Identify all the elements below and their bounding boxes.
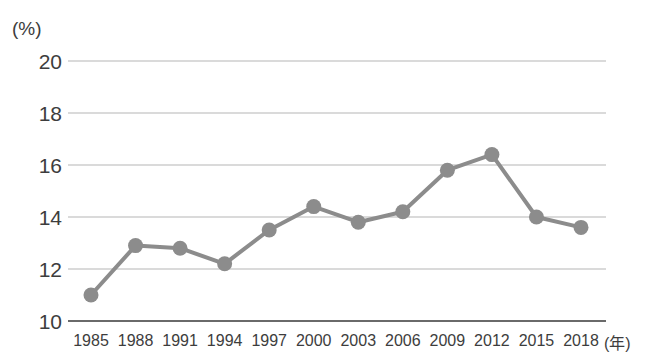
x-axis-tick-label: 2003 bbox=[340, 331, 376, 350]
x-axis-unit-label: (年) bbox=[604, 330, 631, 354]
data-point-marker[interactable] bbox=[262, 223, 277, 238]
series-line bbox=[91, 155, 581, 295]
x-axis-tick-label: 1991 bbox=[162, 331, 198, 350]
data-point-marker[interactable] bbox=[351, 215, 366, 230]
data-point-marker[interactable] bbox=[440, 163, 455, 178]
x-axis-tick-label: 2009 bbox=[430, 331, 466, 350]
plot-area bbox=[0, 0, 649, 357]
x-axis-tick-label: 1985 bbox=[73, 331, 109, 350]
data-point-marker[interactable] bbox=[217, 256, 232, 271]
x-axis-tick-label: 1997 bbox=[251, 331, 287, 350]
x-axis-tick-label: 2006 bbox=[385, 331, 421, 350]
x-axis-tick-label: 2015 bbox=[519, 331, 555, 350]
x-axis-tick-label: 1994 bbox=[207, 331, 243, 350]
data-point-marker[interactable] bbox=[84, 288, 99, 303]
data-point-marker[interactable] bbox=[395, 204, 410, 219]
line-chart: (%) 201816141210 19851988199119941997200… bbox=[0, 0, 649, 357]
data-point-marker[interactable] bbox=[306, 199, 321, 214]
data-point-marker[interactable] bbox=[484, 147, 499, 162]
data-series bbox=[84, 147, 589, 302]
data-point-marker[interactable] bbox=[574, 220, 589, 235]
x-axis-tick-label: 2018 bbox=[563, 331, 599, 350]
data-point-marker[interactable] bbox=[128, 238, 143, 253]
gridlines bbox=[68, 61, 606, 321]
data-point-marker[interactable] bbox=[173, 241, 188, 256]
x-axis-tick-label: 1988 bbox=[118, 331, 154, 350]
x-axis-tick-label: 2000 bbox=[296, 331, 332, 350]
x-axis-tick-labels: 1985198819911994199720002003200620092012… bbox=[0, 331, 649, 357]
x-axis-tick-label: 2012 bbox=[474, 331, 510, 350]
data-point-marker[interactable] bbox=[529, 210, 544, 225]
